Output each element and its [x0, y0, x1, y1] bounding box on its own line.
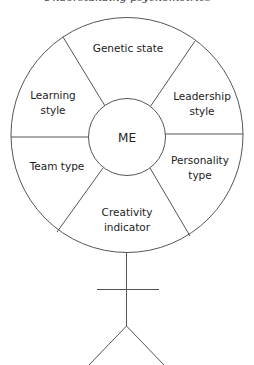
segment-label-line-2: type	[188, 169, 211, 181]
segment-learning-style: Learning style	[30, 89, 76, 116]
segment-label-line-1: Leadership	[173, 90, 231, 102]
spoke-bottom-right	[150, 168, 190, 236]
segment-label: Genetic state	[93, 42, 163, 54]
center-label: ME	[118, 131, 136, 145]
figure-right-leg	[127, 326, 166, 365]
segment-label-line-2: style	[189, 105, 214, 117]
segment-label-line-1: Personality	[171, 154, 229, 166]
segment-label-line-2: style	[40, 104, 65, 116]
segment-genetic-state: Genetic state	[93, 42, 163, 54]
stick-figure-body	[88, 253, 165, 365]
segment-team-type: Team type	[29, 160, 85, 172]
segment-label-line-1: Creativity	[102, 206, 153, 218]
spoke-bottom-left	[57, 168, 103, 232]
segment-creativity-indicator: Creativity indicator	[102, 206, 153, 233]
segment-leadership-style: Leadership style	[173, 90, 231, 117]
segment-label-line-1: Learning	[30, 89, 76, 101]
figure-left-leg	[88, 326, 127, 365]
me-wheel-diagram: ME Genetic state Leadership style Person…	[0, 0, 254, 365]
segment-label-line-2: indicator	[104, 221, 151, 233]
segment-personality-type: Personality type	[171, 154, 229, 181]
segment-label: Team type	[29, 160, 85, 172]
